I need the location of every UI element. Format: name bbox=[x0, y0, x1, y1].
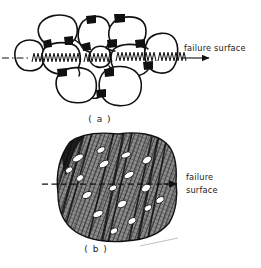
failure-surface-label-b-line1: failure bbox=[186, 172, 213, 182]
panel-b-caption: ( b ) bbox=[84, 244, 107, 254]
cavity-wedge bbox=[143, 61, 153, 70]
failure-surface-label-b-line2: surface bbox=[186, 185, 218, 195]
failure-surface-label-a: failure surface bbox=[184, 43, 246, 53]
cavity-wedge bbox=[57, 68, 67, 77]
fracture-mechanism-figure: failure surface ( a ) bbox=[0, 0, 261, 268]
cavity-wedge bbox=[114, 14, 125, 23]
cavity-wedge bbox=[104, 68, 114, 77]
cavity-wedge bbox=[86, 15, 96, 24]
panel-a-caption: ( a ) bbox=[88, 114, 111, 124]
grain bbox=[15, 40, 44, 71]
stray-pencil-mark bbox=[140, 238, 178, 246]
cavity-wedge bbox=[64, 36, 73, 45]
panel-a-intergranular: failure surface ( a ) bbox=[2, 14, 246, 124]
cavity-wedge bbox=[135, 39, 145, 48]
cavity-wedge bbox=[107, 39, 117, 48]
cavity-wedge bbox=[96, 89, 106, 98]
panel-b-transgranular: failure surface ( b ) bbox=[42, 128, 218, 254]
figure-root: failure surface ( a ) bbox=[0, 0, 261, 268]
